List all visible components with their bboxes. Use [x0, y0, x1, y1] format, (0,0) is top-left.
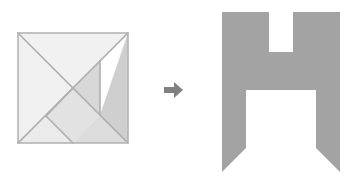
figure-root: A tangram square on the left, an arrow p… [0, 0, 359, 184]
tangram-figure-svg [0, 0, 359, 184]
tangram-square [18, 33, 128, 143]
